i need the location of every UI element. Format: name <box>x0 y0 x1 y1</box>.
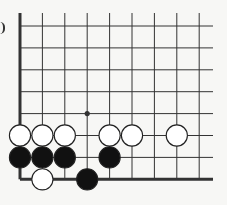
white-stone <box>32 169 53 190</box>
star-point <box>85 111 90 116</box>
black-stone <box>77 169 98 190</box>
black-stone <box>54 147 75 168</box>
white-stone <box>9 125 30 146</box>
black-stone <box>32 147 53 168</box>
white-stone <box>32 125 53 146</box>
white-stone <box>121 125 142 146</box>
white-stone <box>166 125 187 146</box>
black-stone <box>9 147 30 168</box>
white-stone <box>99 125 120 146</box>
white-stone <box>54 125 75 146</box>
black-stone <box>99 147 120 168</box>
go-board <box>0 0 227 205</box>
